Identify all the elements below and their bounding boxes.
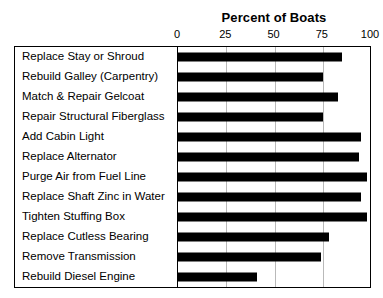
category-row: Match & Repair Gelcoat — [15, 87, 177, 107]
chart-title: Percent of Boats — [177, 10, 371, 25]
bar — [178, 253, 321, 262]
category-row: Rebuild Galley (Carpentry) — [15, 67, 177, 87]
category-row: Replace Shaft Zinc in Water — [15, 187, 177, 207]
bar — [178, 173, 367, 182]
category-label: Remove Transmission — [22, 251, 136, 263]
category-row: Replace Alternator — [15, 147, 177, 167]
bar — [178, 133, 361, 142]
x-tick-label-100: 100 — [361, 28, 379, 40]
category-row: Replace Cutless Bearing — [15, 227, 177, 247]
bar — [178, 73, 323, 82]
category-label: Replace Alternator — [22, 151, 117, 163]
chart-figure: Percent of Boats 0255075100 Replace Stay… — [0, 0, 383, 298]
category-label: Add Cabin Light — [22, 131, 104, 143]
category-row: Purge Air from Fuel Line — [15, 167, 177, 187]
category-label-column: Replace Stay or ShroudRebuild Galley (Ca… — [15, 47, 177, 287]
bar-row — [178, 207, 370, 227]
category-row: Repair Structural Fiberglass — [15, 107, 177, 127]
bar-row — [178, 147, 370, 167]
bar-row — [178, 247, 370, 267]
x-tick-label-0: 0 — [174, 28, 180, 40]
bar-row — [178, 47, 370, 67]
bar-row — [178, 167, 370, 187]
plot-area — [177, 47, 370, 287]
bar — [178, 113, 323, 122]
category-label: Repair Structural Fiberglass — [22, 111, 165, 123]
bar — [178, 233, 329, 242]
category-label: Purge Air from Fuel Line — [22, 171, 146, 183]
category-label: Rebuild Galley (Carpentry) — [22, 71, 158, 83]
bar-row — [178, 267, 370, 287]
category-row: Remove Transmission — [15, 247, 177, 267]
bar — [178, 273, 257, 282]
bar — [178, 53, 342, 62]
category-label: Replace Stay or Shroud — [22, 51, 144, 63]
category-label: Replace Cutless Bearing — [22, 231, 149, 243]
category-row: Add Cabin Light — [15, 127, 177, 147]
bar — [178, 153, 359, 162]
x-axis-tick-labels: 0255075100 — [177, 28, 371, 42]
bar — [178, 193, 361, 202]
x-tick-label-25: 25 — [219, 28, 231, 40]
category-label: Replace Shaft Zinc in Water — [22, 191, 165, 203]
x-tick-label-50: 50 — [267, 28, 279, 40]
bar-row — [178, 127, 370, 147]
bar-row — [178, 107, 370, 127]
category-label: Tighten Stuffing Box — [22, 211, 125, 223]
bar — [178, 93, 338, 102]
category-label: Match & Repair Gelcoat — [22, 91, 144, 103]
bar-row — [178, 187, 370, 207]
category-row: Replace Stay or Shroud — [15, 47, 177, 67]
category-row: Rebuild Diesel Engine — [15, 267, 177, 287]
category-row: Tighten Stuffing Box — [15, 207, 177, 227]
bar-row — [178, 227, 370, 247]
bar — [178, 213, 367, 222]
x-tick-label-75: 75 — [316, 28, 328, 40]
category-label: Rebuild Diesel Engine — [22, 271, 135, 283]
bar-row — [178, 87, 370, 107]
bar-row — [178, 67, 370, 87]
